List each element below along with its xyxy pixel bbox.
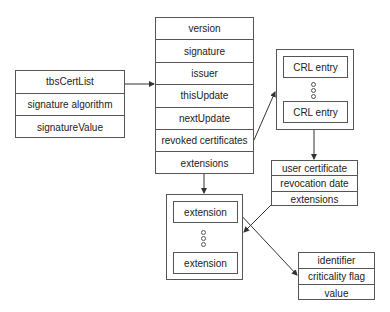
arrow-entry-extensions xyxy=(244,204,272,232)
revoked-list-container: CRL entry CRL entry xyxy=(276,49,354,130)
row-tbscertlist: tbsCertList xyxy=(16,71,124,94)
row-entry-extensions: extensions xyxy=(272,192,357,207)
crl-entry-first: CRL entry xyxy=(283,56,348,78)
row-value: value xyxy=(299,285,374,301)
extension-last: extension xyxy=(173,252,238,274)
extensions-list-container: extension extension xyxy=(166,194,243,280)
row-signature: signature xyxy=(156,40,253,62)
ellipsis-icon xyxy=(311,81,316,99)
row-next-update: nextUpdate xyxy=(156,108,253,130)
crl-entry-last: CRL entry xyxy=(283,101,348,123)
row-criticality-flag: criticality flag xyxy=(299,269,374,285)
arrow-extension xyxy=(238,212,297,275)
row-extensions: extensions xyxy=(156,152,253,174)
row-issuer: issuer xyxy=(156,63,253,85)
row-identifier: identifier xyxy=(299,253,374,269)
crl-entry-box: user certificate revocation date extensi… xyxy=(271,160,358,206)
ellipsis-icon xyxy=(201,229,206,247)
certificate-list-box: tbsCertList signature algorithm signatur… xyxy=(15,70,125,138)
tbs-cert-list-box: version signature issuer thisUpdate next… xyxy=(155,17,254,174)
row-version: version xyxy=(156,18,253,40)
arrow-revoked-certificates xyxy=(254,92,275,140)
row-this-update: thisUpdate xyxy=(156,85,253,107)
extension-first: extension xyxy=(173,201,238,223)
extension-box: identifier criticality flag value xyxy=(298,252,375,300)
row-revocation-date: revocation date xyxy=(272,176,357,191)
row-revoked-certificates: revoked certificates xyxy=(156,130,253,152)
row-signature-algorithm: signature algorithm xyxy=(16,94,124,117)
row-signature-value: signatureValue xyxy=(16,116,124,139)
row-user-certificate: user certificate xyxy=(272,161,357,176)
